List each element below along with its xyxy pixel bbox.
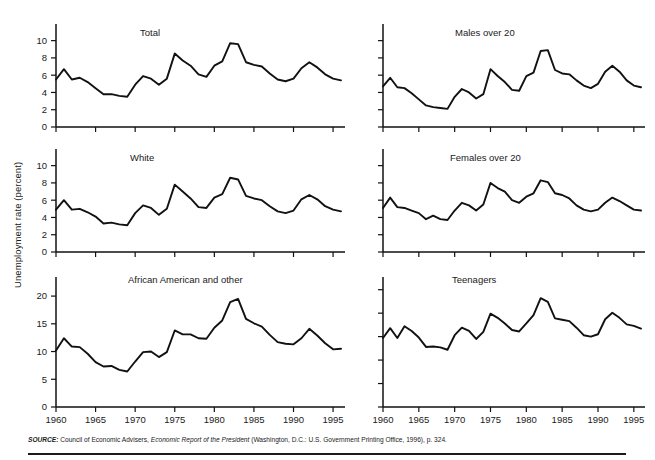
y-tick-label: 10 bbox=[36, 160, 47, 171]
x-tick-label: 1990 bbox=[283, 414, 304, 425]
x-tick-label: 1980 bbox=[204, 414, 225, 425]
data-series-line bbox=[56, 299, 341, 372]
chart-panel-4: African American and other05101520196019… bbox=[0, 0, 655, 460]
panel-title: African American and other bbox=[128, 274, 243, 285]
source-note: SOURCE: Council of Economic Advisers, Ec… bbox=[28, 436, 628, 445]
data-series-line bbox=[56, 178, 341, 226]
y-tick-label: 10 bbox=[36, 346, 47, 357]
x-tick-label: 1980 bbox=[516, 414, 537, 425]
source-text-2: (Washington, D.C.: U.S. Government Print… bbox=[249, 436, 447, 443]
chart-svg bbox=[0, 0, 655, 460]
chart-svg: 0510152019601965197019751980198519901995 bbox=[0, 0, 655, 460]
x-tick-label: 1960 bbox=[45, 414, 66, 425]
panel-title: Total bbox=[140, 27, 160, 38]
x-tick-label: 1985 bbox=[243, 414, 264, 425]
y-tick-label: 2 bbox=[42, 104, 47, 115]
x-tick-label: 1970 bbox=[444, 414, 465, 425]
y-tick-label: 0 bbox=[42, 246, 47, 257]
x-tick-label: 1960 bbox=[372, 414, 393, 425]
data-series-line bbox=[383, 298, 641, 350]
source-text-1: Council of Economic Advisers, bbox=[58, 436, 150, 443]
data-series-line bbox=[56, 43, 341, 97]
y-tick-label: 8 bbox=[42, 52, 47, 63]
data-series-line bbox=[383, 50, 641, 109]
y-tick-label: 5 bbox=[42, 374, 47, 385]
data-series-line bbox=[383, 180, 641, 220]
y-tick-label: 6 bbox=[42, 70, 47, 81]
x-tick-label: 1965 bbox=[85, 414, 106, 425]
source-title: Economic Report of the President bbox=[151, 436, 250, 443]
y-tick-label: 0 bbox=[42, 401, 47, 412]
panel-title: White bbox=[130, 152, 154, 163]
x-tick-label: 1985 bbox=[552, 414, 573, 425]
y-tick-label: 0 bbox=[42, 121, 47, 132]
unemployment-rate-figure: Unemployment rate (percent) Total0246810… bbox=[0, 0, 655, 460]
y-tick-label: 10 bbox=[36, 35, 47, 46]
panel-title: Teenagers bbox=[452, 274, 496, 285]
y-tick-label: 2 bbox=[42, 229, 47, 240]
chart-svg: 0246810 bbox=[0, 0, 655, 460]
chart-svg bbox=[0, 0, 655, 460]
x-tick-label: 1975 bbox=[480, 414, 501, 425]
panel-title: Females over 20 bbox=[450, 152, 521, 163]
chart-svg: 19601965197019751980198519901995 bbox=[0, 0, 655, 460]
panel-title: Males over 20 bbox=[455, 27, 515, 38]
x-tick-label: 1990 bbox=[587, 414, 608, 425]
source-label: SOURCE: bbox=[28, 436, 58, 443]
y-tick-label: 20 bbox=[36, 290, 47, 301]
bottom-rule bbox=[28, 453, 626, 455]
y-tick-label: 15 bbox=[36, 318, 47, 329]
chart-svg: 0246810 bbox=[0, 0, 655, 460]
chart-panel-0: Total0246810 bbox=[0, 0, 655, 460]
chart-panel-1: Males over 20 bbox=[0, 0, 655, 460]
x-tick-label: 1970 bbox=[125, 414, 146, 425]
x-tick-label: 1995 bbox=[623, 414, 644, 425]
y-tick-label: 4 bbox=[42, 212, 47, 223]
y-tick-label: 6 bbox=[42, 195, 47, 206]
x-tick-label: 1995 bbox=[323, 414, 344, 425]
x-tick-label: 1975 bbox=[164, 414, 185, 425]
chart-panel-2: White0246810 bbox=[0, 0, 655, 460]
y-tick-label: 4 bbox=[42, 87, 47, 98]
chart-panel-3: Females over 20 bbox=[0, 0, 655, 460]
y-tick-label: 8 bbox=[42, 177, 47, 188]
y-axis-title: Unemployment rate (percent) bbox=[12, 150, 28, 300]
x-tick-label: 1965 bbox=[408, 414, 429, 425]
chart-panel-5: Teenagers1960196519701975198019851990199… bbox=[0, 0, 655, 460]
